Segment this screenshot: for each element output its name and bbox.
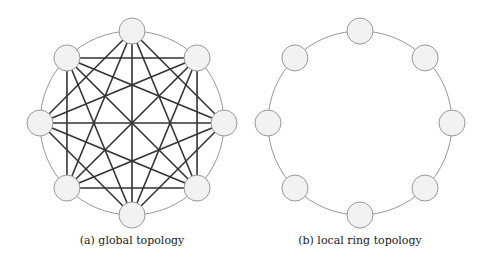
node <box>184 175 210 201</box>
node <box>347 202 373 228</box>
topology-diagrams <box>0 0 490 263</box>
node <box>282 45 308 71</box>
node <box>412 175 438 201</box>
node <box>119 202 145 228</box>
node <box>27 110 53 136</box>
node <box>54 45 80 71</box>
node <box>119 18 145 44</box>
node <box>54 175 80 201</box>
diagram-fully-connected <box>27 18 237 228</box>
diagram-ring <box>255 18 465 228</box>
node <box>412 45 438 71</box>
node <box>184 45 210 71</box>
node <box>255 110 281 136</box>
node <box>282 175 308 201</box>
node <box>211 110 237 136</box>
node <box>347 18 373 44</box>
caption-local-ring-topology: (b) local ring topology <box>260 234 460 247</box>
caption-global-topology: (a) global topology <box>32 234 232 247</box>
node <box>439 110 465 136</box>
